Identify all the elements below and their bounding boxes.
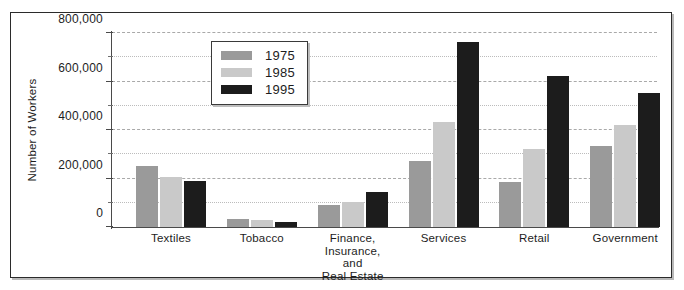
y-axis-tick-label: 800,000: [58, 12, 103, 26]
bar-group: [136, 33, 206, 227]
bar: [275, 222, 297, 227]
x-axis-tick-label: Government: [565, 232, 684, 245]
bar: [318, 205, 340, 227]
bar: [184, 181, 206, 227]
y-axis-tick: [106, 81, 113, 82]
bar-group: [499, 33, 569, 227]
bar: [590, 146, 612, 227]
legend-item: 1975: [221, 47, 295, 64]
chart-figure: Number of Workers 0200,000400,000600,000…: [0, 0, 684, 290]
bar-group: [590, 33, 660, 227]
chart-legend: 197519851995: [211, 41, 308, 105]
y-axis-tick-minor: [108, 153, 113, 154]
bar: [499, 182, 521, 227]
bar: [547, 76, 569, 227]
y-axis-tick-label: 400,000: [58, 109, 103, 123]
bar: [160, 177, 182, 227]
legend-swatch: [221, 51, 252, 60]
y-axis-tick: [106, 129, 113, 130]
legend-label: 1985: [265, 65, 295, 80]
legend-item: 1995: [221, 81, 295, 98]
x-axis-tick-label-line: Real Estate: [293, 270, 413, 283]
y-axis-tick: [106, 32, 113, 33]
y-axis-tick-minor: [108, 56, 113, 57]
x-axis-tick-label-line: Insurance,: [293, 245, 413, 258]
y-axis-tick-minor: [108, 202, 113, 203]
bar: [251, 220, 273, 227]
bar-group: [409, 33, 479, 227]
y-axis-tick-label: 600,000: [58, 61, 103, 75]
plot-area: 0200,000400,000600,000800,000: [112, 33, 657, 227]
y-axis-title-text: Number of Workers: [26, 20, 38, 240]
y-axis-tick-minor: [108, 105, 113, 106]
bar: [409, 161, 431, 227]
x-axis-line: [111, 227, 659, 228]
bar: [433, 122, 455, 227]
bar: [457, 42, 479, 228]
y-axis-tick-label: 0: [96, 206, 103, 220]
bar: [614, 125, 636, 227]
y-axis-tick-label: 200,000: [58, 158, 103, 172]
x-axis-tick-label-line: Government: [565, 232, 684, 245]
y-axis-tick: [106, 226, 113, 227]
bar: [136, 166, 158, 227]
legend-item: 1985: [221, 64, 295, 81]
bar: [227, 219, 249, 227]
bar: [366, 192, 388, 227]
bar-group: [318, 33, 388, 227]
legend-label: 1995: [265, 82, 295, 97]
legend-swatch: [221, 85, 252, 94]
bar: [638, 93, 660, 227]
legend-swatch: [221, 68, 252, 77]
y-axis-title: Number of Workers: [16, 0, 36, 12]
legend-label: 1975: [265, 48, 295, 63]
x-axis-tick-label-line: and: [293, 257, 413, 270]
bar: [342, 202, 364, 227]
y-axis-tick: [106, 178, 113, 179]
bar: [523, 149, 545, 227]
